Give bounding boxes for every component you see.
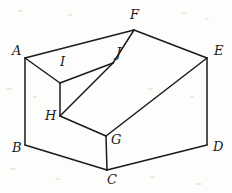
vertex-label-g: G [111,133,121,146]
edge-h-g [60,116,106,136]
vertex-label-i: I [60,55,65,68]
paper-speck [190,96,194,98]
paper-speck [55,178,60,180]
vertex-label-b: B [12,141,22,154]
paper-speck [18,10,23,12]
edge-a-i [25,58,60,83]
edge-b-c [25,145,107,170]
paper-speck [33,96,37,98]
paper-speck [205,18,209,20]
paper-speck [181,12,187,14]
edge-h-j [60,63,113,116]
paper-speck [10,168,16,170]
vertex-label-j: J [116,46,121,59]
paper-speck [196,183,202,185]
vertex-label-a: A [12,44,21,57]
edge-f-e [134,30,207,58]
vertex-label-f: F [130,8,139,21]
vertex-label-e: E [214,44,224,57]
edge-c-d [107,145,207,170]
paper-speck [6,88,12,90]
paper-speck [148,88,153,90]
vertex-label-d: D [213,140,223,153]
edge-i-j [60,63,113,83]
vertex-label-h: H [45,109,56,122]
edge-g-c [106,136,107,170]
paper-speck [68,14,72,16]
geometry-figure: ABCDEFGHIJ [0,0,232,193]
vertex-label-c: C [107,173,117,186]
paper-speck [150,176,155,178]
